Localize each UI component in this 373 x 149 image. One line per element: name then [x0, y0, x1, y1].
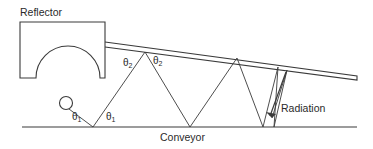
reflector-diagram: Reflector Conveyor Radiation θ1 θ1 θ2 θ2 — [0, 0, 373, 149]
angle-theta1-right: θ1 — [106, 112, 115, 123]
angle-theta2-right: θ2 — [153, 56, 162, 67]
angle-theta1-left: θ1 — [72, 112, 81, 123]
angle-theta2-left: θ2 — [123, 58, 132, 69]
radiation-label: Radiation — [281, 103, 325, 114]
radiation-ray-path — [69, 52, 287, 127]
diagram-graphics — [0, 0, 373, 149]
reflector-housing — [20, 22, 105, 78]
lamp-source — [60, 97, 73, 110]
top-reflector-plate — [105, 42, 357, 80]
conveyor-label: Conveyor — [160, 132, 205, 143]
reflector-label: Reflector — [20, 7, 62, 18]
